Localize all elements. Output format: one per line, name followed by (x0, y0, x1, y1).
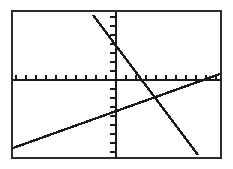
screenshot-root (0, 0, 233, 169)
graph-canvas (0, 0, 233, 169)
y-axis-line (115, 12, 117, 158)
graphing-calculator-screen (0, 0, 233, 169)
